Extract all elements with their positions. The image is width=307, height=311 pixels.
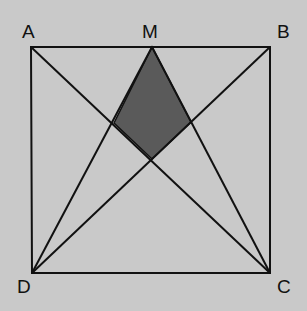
label-m: M	[142, 22, 158, 41]
segment-md	[32, 47, 152, 273]
label-a: A	[22, 22, 35, 41]
segment-mc	[152, 47, 270, 273]
square-diagram	[0, 0, 307, 311]
shaded-quadrilateral	[114, 47, 191, 159]
label-b: B	[277, 22, 290, 41]
label-c: C	[277, 277, 291, 296]
label-d: D	[17, 277, 31, 296]
diagram-canvas: A M B C D	[0, 0, 307, 311]
